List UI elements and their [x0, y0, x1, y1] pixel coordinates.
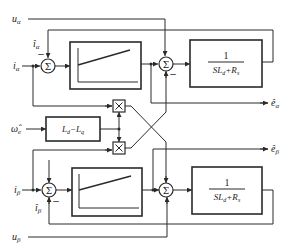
i-beta-label: iβ — [14, 184, 21, 197]
control-block-diagram: Σ − Σ − 1 SLd+Rs Ld−Lq — [0, 0, 286, 252]
multiplier-top — [113, 100, 125, 112]
gain-block-beta — [72, 168, 142, 216]
svg-text:Σ: Σ — [46, 186, 52, 196]
svg-text:−: − — [52, 196, 60, 206]
svg-text:SLd+Rs: SLd+Rs — [214, 192, 241, 203]
svg-text:1: 1 — [225, 177, 230, 188]
u-beta-label: uβ — [12, 231, 21, 244]
inductance-difference-block: Ld−Lq — [46, 117, 100, 141]
omega-hat-label: ω̂e — [11, 123, 22, 136]
plant-block-beta: 1 SLd+Rs — [192, 167, 262, 214]
svg-text:Ld−Lq: Ld−Lq — [61, 124, 84, 135]
i-alpha-label: iα — [13, 60, 20, 73]
sum-junction-beta-1: Σ − — [42, 183, 60, 206]
e-beta-hat-label: êβ — [271, 143, 279, 156]
svg-text:SLd+Rs: SLd+Rs — [213, 65, 240, 76]
svg-text:−: − — [169, 69, 177, 79]
sum-junction-alpha-1: Σ − — [37, 49, 55, 73]
gain-block-alpha — [70, 42, 141, 89]
svg-text:Σ: Σ — [45, 62, 51, 72]
svg-text:1: 1 — [224, 50, 229, 61]
e-alpha-hat-label: êα — [271, 97, 279, 110]
svg-text:Σ: Σ — [163, 60, 169, 70]
plant-block-alpha: 1 SLd+Rs — [190, 40, 262, 87]
svg-text:Σ: Σ — [163, 186, 169, 196]
u-alpha-label: uα — [12, 13, 21, 26]
multiplier-bottom — [113, 142, 125, 154]
sum-junction-beta-2: Σ — [159, 183, 173, 197]
i-alpha-hat-label: îα — [33, 38, 40, 51]
sum-junction-alpha-2: Σ − — [159, 57, 177, 79]
i-beta-hat-label: îβ — [35, 202, 42, 215]
